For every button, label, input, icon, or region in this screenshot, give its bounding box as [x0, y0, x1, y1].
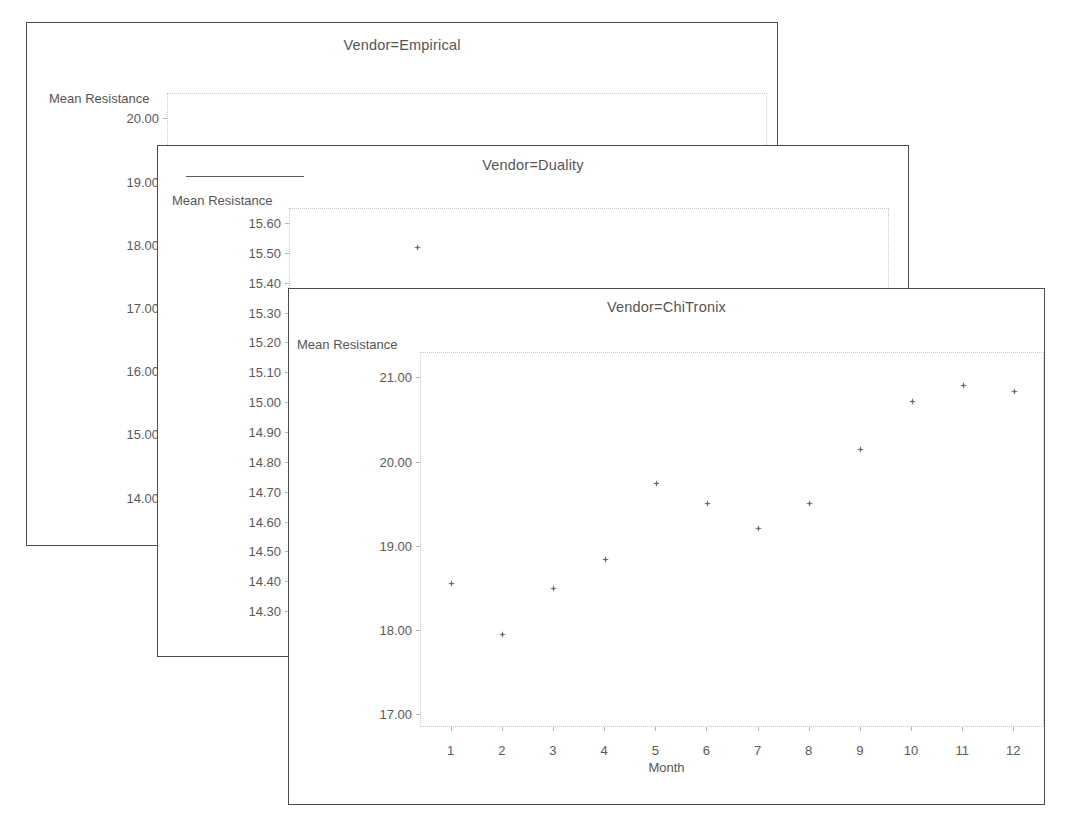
y-tick-label: 14.40: [217, 574, 281, 589]
x-tick-mark: [553, 727, 554, 731]
x-tick-mark: [706, 727, 707, 731]
y-tick-label: 17.00: [348, 707, 412, 722]
y-tick-label: 15.60: [217, 215, 281, 230]
x-tick-label: 6: [703, 743, 710, 758]
y-axis-label-empirical: Mean Resistance: [49, 91, 149, 106]
x-tick-mark: [758, 727, 759, 731]
data-point-marker: [806, 500, 813, 507]
x-tick-label: 3: [549, 743, 556, 758]
data-point-marker: [448, 580, 455, 587]
y-tick-label: 20.00: [348, 454, 412, 469]
y-tick-label: 18.00: [348, 623, 412, 638]
y-tick-label: 15.10: [217, 365, 281, 380]
x-tick-label: 5: [652, 743, 659, 758]
y-tick-label: 19.00: [348, 538, 412, 553]
x-tick-mark: [911, 727, 912, 731]
data-point-marker: [704, 500, 711, 507]
data-point-marker: [414, 244, 421, 251]
x-tick-mark: [1013, 727, 1014, 731]
y-axis-label-chitronix: Mean Resistance: [297, 337, 397, 352]
x-tick-mark: [502, 727, 503, 731]
x-tick-label: 1: [447, 743, 454, 758]
y-tick-label: 14.30: [217, 604, 281, 619]
x-tick-label: 11: [955, 743, 969, 758]
data-point-marker: [909, 398, 916, 405]
x-tick-label: 7: [754, 743, 761, 758]
x-tick-mark: [604, 727, 605, 731]
strip-rule-duality: [186, 176, 304, 177]
x-axis-label-chitronix: Month: [289, 760, 1044, 775]
x-tick-mark: [962, 727, 963, 731]
data-point-marker: [960, 382, 967, 389]
data-point-marker: [755, 525, 762, 532]
x-tick-mark: [655, 727, 656, 731]
facet-panel-chitronix: Vendor=ChiTronix Mean Resistance 21.0020…: [288, 288, 1045, 805]
y-tick-label: 15.20: [217, 335, 281, 350]
y-tick-label: 18.00: [95, 237, 159, 252]
x-tick-label: 4: [601, 743, 608, 758]
x-tick-mark: [860, 727, 861, 731]
x-tick-mark: [809, 727, 810, 731]
y-tick-label: 15.00: [217, 395, 281, 410]
y-tick-label: 14.00: [95, 490, 159, 505]
y-tick-label: 15.30: [217, 305, 281, 320]
y-tick-label: 14.50: [217, 544, 281, 559]
x-tick-mark: [451, 727, 452, 731]
y-tick-label: 15.40: [217, 275, 281, 290]
data-point-marker: [602, 556, 609, 563]
x-tick-label: 12: [1006, 743, 1020, 758]
data-point-marker: [550, 585, 557, 592]
plot-area-chitronix: [420, 352, 1044, 727]
y-tick-label: 19.00: [95, 174, 159, 189]
data-point-marker: [857, 446, 864, 453]
y-tick-label: 14.70: [217, 484, 281, 499]
x-tick-label: 8: [805, 743, 812, 758]
facet-title-chitronix: Vendor=ChiTronix: [289, 299, 1044, 315]
y-tick-label: 17.00: [95, 301, 159, 316]
y-tick-label: 21.00: [348, 370, 412, 385]
data-point-marker: [499, 631, 506, 638]
y-tick-label: 15.00: [95, 427, 159, 442]
data-point-marker: [653, 480, 660, 487]
y-tick-label: 16.00: [95, 364, 159, 379]
figure-canvas: Vendor=Empirical Mean Resistance 20.0019…: [0, 0, 1068, 833]
y-tick-label: 15.50: [217, 245, 281, 260]
y-tick-label: 14.80: [217, 454, 281, 469]
y-axis-label-duality: Mean Resistance: [172, 193, 272, 208]
y-tick-label: 14.90: [217, 424, 281, 439]
y-tick-label: 14.60: [217, 514, 281, 529]
x-tick-label: 2: [498, 743, 505, 758]
facet-title-empirical: Vendor=Empirical: [27, 37, 777, 53]
y-tick-label: 20.00: [95, 111, 159, 126]
data-point-marker: [1011, 388, 1018, 395]
x-tick-label: 9: [856, 743, 863, 758]
x-tick-label: 10: [904, 743, 918, 758]
facet-title-duality: Vendor=Duality: [158, 157, 908, 173]
